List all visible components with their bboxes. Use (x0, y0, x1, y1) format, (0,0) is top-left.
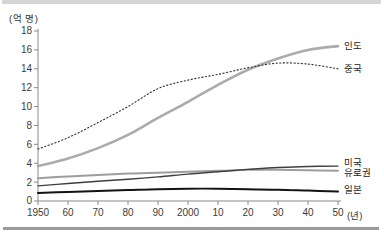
y-tick-label: 12 (21, 82, 33, 93)
legend-label-india: 인도 (344, 40, 362, 51)
x-tick-label: 20 (242, 207, 254, 218)
x-tick-label: 90 (152, 207, 164, 218)
y-tick-label: 16 (21, 44, 33, 55)
y-tick-label: 14 (21, 63, 33, 74)
series-line-china (38, 63, 338, 149)
population-line-chart: 0246810121416181950607080902000102030405… (0, 0, 384, 239)
x-tick-label: 30 (272, 207, 284, 218)
x-tick-label: 40 (302, 207, 314, 218)
legend-label-china: 중국 (344, 63, 362, 74)
bottom-border-bar (3, 227, 379, 230)
x-tick-label: 50 (332, 207, 344, 218)
series-line-japan (38, 189, 338, 193)
legend-label-usa: 미국 (344, 157, 362, 168)
x-tick-label: 1950 (27, 207, 50, 218)
y-tick-label: 8 (26, 120, 32, 131)
x-tick-label: 10 (212, 207, 224, 218)
legend-label-eurozone: 유로권 (344, 167, 371, 178)
y-tick-label: 10 (21, 101, 33, 112)
x-tick-label: 2000 (177, 207, 200, 218)
legend-label-japan: 일본 (344, 184, 362, 195)
y-tick-label: 18 (21, 25, 33, 36)
x-tick-label: 80 (122, 207, 134, 218)
y-tick-label: 4 (26, 158, 32, 169)
series-line-india (38, 46, 338, 166)
x-tick-label: 70 (92, 207, 104, 218)
figure-root: (억 명) 0246810121416181950607080902000102… (0, 0, 384, 239)
y-tick-label: 6 (26, 139, 32, 150)
y-tick-label: 2 (26, 177, 32, 188)
x-axis-unit-label: (년) (347, 208, 362, 222)
x-tick-label: 60 (62, 207, 74, 218)
y-tick-label: 0 (26, 195, 32, 206)
